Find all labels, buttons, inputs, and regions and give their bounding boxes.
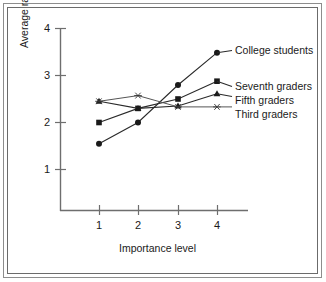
x-axis-title: Importance level (119, 243, 196, 254)
x-tick-label-1: 1 (96, 220, 102, 231)
series-college-students (96, 50, 232, 147)
chart-figure: 4 3 2 1 1 2 3 4 Importance level Average… (0, 0, 326, 282)
series-fifth-graders (96, 90, 232, 111)
legend-label-fifth-graders: Fifth graders (235, 95, 294, 106)
x-tick-label-3: 3 (175, 220, 181, 231)
y-tick-label-1: 1 (44, 164, 50, 175)
legend-label-seventh-graders: Seventh graders (235, 81, 312, 92)
y-axis-title-text: Average rating given by students (18, 0, 30, 48)
y-axis-title: Average rating given by students (18, 0, 30, 48)
y-tick-label-4: 4 (44, 23, 50, 34)
series-seventh-graders (96, 78, 232, 125)
legend-label-college-students: College students (235, 45, 313, 56)
x-tick-label-2: 2 (135, 220, 141, 231)
y-tick-label-3: 3 (44, 70, 50, 81)
legend-label-third-graders: Third graders (235, 109, 297, 120)
y-tick-label-2: 2 (44, 117, 50, 128)
line-chart-plot (0, 0, 326, 282)
x-tick-label-4: 4 (214, 220, 220, 231)
